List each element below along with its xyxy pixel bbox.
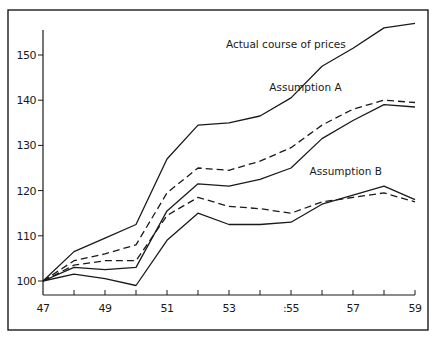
y-tick-label: 140 — [17, 94, 37, 107]
x-tick-label: 57 — [347, 302, 360, 315]
series-line-4 — [43, 186, 415, 285]
annotation-label: Assumption A — [269, 81, 342, 93]
y-tick-label: 130 — [17, 139, 37, 152]
y-tick-label: 120 — [17, 185, 37, 198]
series-line-3 — [43, 193, 415, 281]
annotation-label: Assumption B — [310, 165, 382, 177]
y-tick-label: 150 — [17, 49, 37, 62]
series-group — [43, 23, 415, 285]
price-chart: 10011012013014015047495153:555759 Actual… — [0, 0, 434, 345]
series-line-0 — [43, 23, 415, 281]
series-line-1 — [43, 100, 415, 281]
x-tick-label: 49 — [99, 302, 112, 315]
annotation-label: Actual course of prices — [226, 38, 346, 50]
x-tick-label: 59 — [409, 302, 422, 315]
x-tick-label: 53 — [223, 302, 236, 315]
y-tick-label: 110 — [17, 230, 37, 243]
x-tick-label: :55 — [283, 302, 300, 315]
x-tick-label: 51 — [161, 302, 174, 315]
x-tick-label: 47 — [37, 302, 50, 315]
y-tick-label: 100 — [17, 275, 37, 288]
